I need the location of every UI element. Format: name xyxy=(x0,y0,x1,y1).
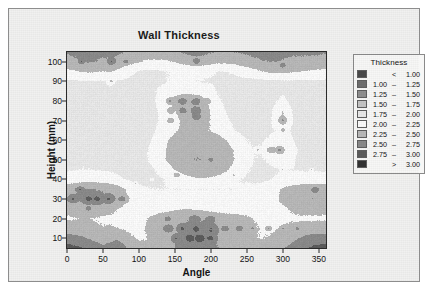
legend-range-low: 2.25 xyxy=(370,130,387,139)
legend-range-high: 2.50 xyxy=(401,130,420,139)
legend-entry: 1.25–1.50 xyxy=(357,89,421,99)
legend-swatch xyxy=(357,110,367,118)
legend-range-low: 1.75 xyxy=(370,110,387,119)
x-tick-mark xyxy=(102,249,103,253)
legend-swatch xyxy=(357,90,367,98)
y-tick-mark xyxy=(62,101,66,102)
legend-range-low: 1.50 xyxy=(370,100,387,109)
legend-entry: 1.00–1.25 xyxy=(357,79,421,89)
y-tick-label: 10 xyxy=(53,233,62,243)
x-tick-label: 350 xyxy=(312,254,326,264)
legend-entry: 2.00–2.25 xyxy=(357,119,421,129)
x-axis-label: Angle xyxy=(66,267,327,278)
y-tick-label: 60 xyxy=(53,135,62,145)
legend-range-separator: – xyxy=(390,90,398,99)
y-tick-mark xyxy=(62,218,66,219)
plot-area-wrapper: Height (mm) Angle 1020304050607080901000… xyxy=(66,51,327,249)
legend-range-high: 2.00 xyxy=(401,110,420,119)
contour-plot-area xyxy=(66,51,327,249)
legend-range-low: 1.25 xyxy=(370,90,387,99)
legend-entry-label: 1.25–1.50 xyxy=(370,90,421,99)
legend-entry-label: 2.00–2.25 xyxy=(370,120,421,129)
y-tick-mark xyxy=(62,179,66,180)
contour-canvas xyxy=(67,52,326,248)
y-tick-label: 90 xyxy=(53,76,62,86)
legend-range-low xyxy=(370,160,387,169)
y-tick-mark xyxy=(62,238,66,239)
legend-entry-label: 2.50–2.75 xyxy=(370,140,421,149)
x-tick-label: 100 xyxy=(132,254,146,264)
chart-title: Wall Thickness xyxy=(9,29,349,41)
x-tick-label: 300 xyxy=(276,254,290,264)
x-tick-mark xyxy=(282,249,283,253)
y-tick-mark xyxy=(62,81,66,82)
x-tick-mark xyxy=(246,249,247,253)
legend-entry: 2.50–2.75 xyxy=(357,139,421,149)
y-tick-label: 80 xyxy=(53,96,62,106)
y-tick-label: 70 xyxy=(53,116,62,126)
legend-swatch xyxy=(357,70,367,78)
legend-entries: <1.001.00–1.251.25–1.501.50–1.751.75–2.0… xyxy=(357,69,421,169)
y-tick-label: 40 xyxy=(53,174,62,184)
x-tick-mark xyxy=(67,249,68,253)
legend-entry-label: 2.75–3.00 xyxy=(370,150,421,159)
legend-entry-label: <1.00 xyxy=(370,70,421,79)
legend-entry-label: 1.00–1.25 xyxy=(370,80,421,89)
legend-range-low: 2.50 xyxy=(370,140,387,149)
legend-swatch xyxy=(357,130,367,138)
legend-range-high: 1.00 xyxy=(401,70,420,79)
legend-range-high: 1.50 xyxy=(401,90,420,99)
legend-range-separator: – xyxy=(390,140,398,149)
x-tick-label: 200 xyxy=(204,254,218,264)
x-tick-label: 150 xyxy=(168,254,182,264)
y-tick-label: 30 xyxy=(53,194,62,204)
legend-swatch xyxy=(357,150,367,158)
legend-range-low: 1.00 xyxy=(370,80,387,89)
legend-entry: 2.25–2.50 xyxy=(357,129,421,139)
x-tick-mark xyxy=(318,249,319,253)
legend-entry-label: >3.00 xyxy=(370,160,421,169)
legend-box: Thickness <1.001.00–1.251.25–1.501.50–1.… xyxy=(353,54,425,174)
legend-title: Thickness xyxy=(357,58,421,67)
legend-range-separator: – xyxy=(390,130,398,139)
legend-range-high: 2.75 xyxy=(401,140,420,149)
legend-range-separator: – xyxy=(390,120,398,129)
legend-range-separator: – xyxy=(390,80,398,89)
y-tick-mark xyxy=(62,61,66,62)
legend-range-high: 1.75 xyxy=(401,100,420,109)
legend-range-high: 1.25 xyxy=(401,80,420,89)
x-tick-mark xyxy=(138,249,139,253)
y-tick-mark xyxy=(62,199,66,200)
legend-swatch xyxy=(357,120,367,128)
legend-swatch xyxy=(357,160,367,168)
x-tick-label: 0 xyxy=(65,254,70,264)
legend-range-separator: < xyxy=(390,70,398,79)
y-tick-mark xyxy=(62,120,66,121)
legend-range-low xyxy=(370,70,387,79)
y-tick-mark xyxy=(62,140,66,141)
legend-range-separator: – xyxy=(390,110,398,119)
y-tick-label: 100 xyxy=(48,57,62,67)
y-tick-label: 20 xyxy=(53,214,62,224)
legend-range-separator: – xyxy=(390,150,398,159)
legend-entry: 2.75–3.00 xyxy=(357,149,421,159)
legend-entry: 1.50–1.75 xyxy=(357,99,421,109)
legend-range-high: 3.00 xyxy=(401,160,420,169)
legend-entry: >3.00 xyxy=(357,159,421,169)
y-axis-label: Height (mm) xyxy=(46,121,57,179)
legend-swatch xyxy=(357,100,367,108)
legend-swatch xyxy=(357,140,367,148)
legend-range-high: 3.00 xyxy=(401,150,420,159)
chart-root: Wall Thickness Height (mm) Angle 1020304… xyxy=(0,0,430,291)
legend-range-separator: – xyxy=(390,100,398,109)
legend-entry-label: 1.50–1.75 xyxy=(370,100,421,109)
x-tick-mark xyxy=(174,249,175,253)
x-tick-label: 50 xyxy=(98,254,107,264)
legend-swatch xyxy=(357,80,367,88)
legend-entry-label: 1.75–2.00 xyxy=(370,110,421,119)
x-tick-mark xyxy=(210,249,211,253)
y-tick-label: 50 xyxy=(53,155,62,165)
legend-entry: <1.00 xyxy=(357,69,421,79)
figure-frame: Wall Thickness Height (mm) Angle 1020304… xyxy=(8,8,420,282)
legend-entry: 1.75–2.00 xyxy=(357,109,421,119)
